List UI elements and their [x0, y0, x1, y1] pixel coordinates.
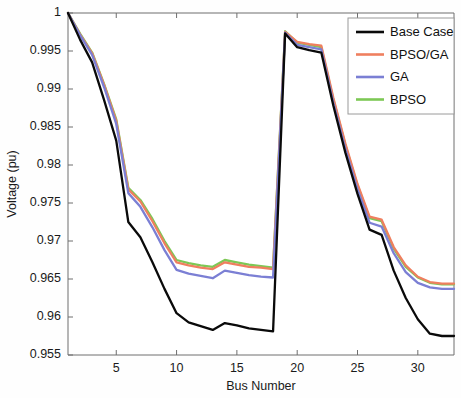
y-tick-label: 0.99: [37, 81, 61, 95]
legend-label-base-case: Base Case: [390, 24, 454, 39]
y-tick-label: 0.97: [37, 233, 61, 247]
y-tick-label: 0.96: [37, 309, 61, 323]
x-tick-label: 10: [170, 361, 184, 375]
x-tick-label: 25: [351, 361, 365, 375]
y-axis-label: Voltage (pu): [5, 150, 19, 217]
legend-label-bpso: BPSO: [390, 92, 426, 107]
y-tick-label: 0.995: [30, 43, 61, 57]
chart-canvas: 0.9550.960.9650.970.9750.980.9850.990.99…: [0, 0, 461, 398]
y-axis-ticks: 0.9550.960.9650.970.9750.980.9850.990.99…: [30, 5, 73, 361]
x-tick-label: 15: [230, 361, 244, 375]
x-tick-label: 20: [290, 361, 304, 375]
y-tick-label: 0.965: [30, 271, 61, 285]
y-tick-label: 0.955: [30, 347, 61, 361]
chart-legend: Base CaseBPSO/GAGABPSO: [348, 18, 454, 114]
y-tick-label: 0.98: [37, 157, 61, 171]
x-axis-label: Bus Number: [226, 379, 295, 393]
legend-label-ga: GA: [390, 69, 409, 84]
x-tick-label: 5: [113, 361, 120, 375]
y-tick-label: 0.975: [30, 195, 61, 209]
y-tick-label: 1: [54, 5, 61, 19]
x-tick-label: 30: [411, 361, 425, 375]
legend-label-bpso-ga: BPSO/GA: [390, 47, 449, 62]
voltage-profile-chart: 0.9550.960.9650.970.9750.980.9850.990.99…: [0, 0, 461, 398]
y-tick-label: 0.985: [30, 119, 61, 133]
